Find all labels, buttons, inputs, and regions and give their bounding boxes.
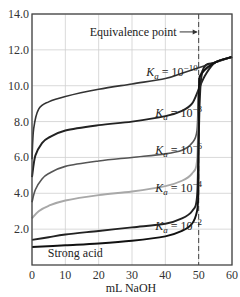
arrow-head-icon	[193, 29, 198, 34]
x-tick-label: 30	[126, 268, 138, 282]
x-axis-label: mL NaOH	[106, 281, 157, 295]
series-label: Ka = 10−4	[154, 179, 202, 197]
equivalence-point-label: Equivalence point	[90, 25, 178, 39]
series-labels: Ka = 10−10Ka = 10−8Ka = 10−6Ka = 10−4Ka …	[48, 63, 203, 260]
y-tick-label: 12.0	[8, 43, 29, 57]
y-tick-label: 4.0	[14, 186, 29, 200]
y-tick-label: 2.0	[14, 222, 29, 236]
x-tick-label: 0	[29, 268, 35, 282]
y-axis-ticks: 2.04.06.08.010.012.014.0	[8, 7, 29, 236]
y-tick-label: 10.0	[8, 79, 29, 93]
equivalence-annotation: Equivalence point	[90, 25, 198, 39]
x-axis-ticks: 0102030405060	[29, 268, 238, 282]
y-tick-label: 6.0	[14, 150, 29, 164]
series-label: Ka = 10−6	[154, 141, 202, 159]
series-label: Strong acid	[48, 246, 103, 260]
x-tick-label: 50	[193, 268, 205, 282]
series-label: Ka = 10−10	[145, 63, 198, 81]
x-tick-label: 10	[59, 268, 71, 282]
series-label: Ka = 10−2	[154, 217, 202, 235]
y-tick-label: 8.0	[14, 115, 29, 129]
titration-chart: 0102030405060 2.04.06.08.010.012.014.0 K…	[0, 0, 240, 297]
x-tick-label: 40	[159, 268, 171, 282]
series-label: Ka = 10−8	[154, 104, 202, 122]
x-tick-label: 60	[226, 268, 238, 282]
x-tick-label: 20	[93, 268, 105, 282]
y-tick-label: 14.0	[8, 7, 29, 21]
